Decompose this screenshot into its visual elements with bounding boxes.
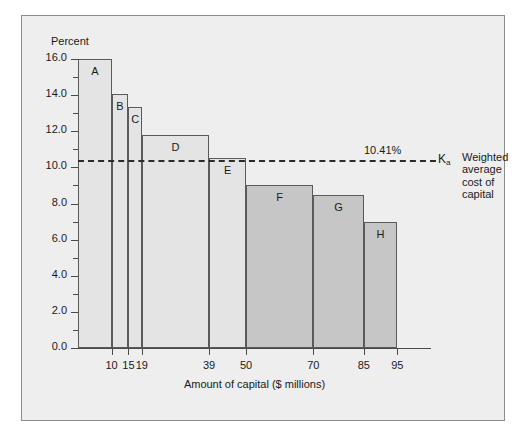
- y-tick: 10.0: [71, 167, 78, 168]
- wacc-description-line: cost of: [462, 176, 508, 189]
- y-tick-mark: [71, 204, 78, 205]
- y-tick-label: 4.0: [52, 268, 67, 280]
- y-tick-label: 16.0: [46, 51, 67, 63]
- y-tick-mark: [71, 95, 78, 96]
- x-tick-mark: [313, 348, 314, 355]
- y-tick-mark: [71, 131, 78, 132]
- wacc-threshold-line: [78, 160, 436, 162]
- y-tick-mark: [71, 59, 78, 60]
- x-tick-label: 95: [391, 359, 403, 371]
- x-tick-label: 85: [358, 359, 370, 371]
- y-tick-mark: [71, 348, 78, 349]
- wacc-description-line: Weighted: [462, 151, 508, 164]
- wacc-symbol-subscript: a: [446, 158, 450, 167]
- y-tick-mark: [71, 312, 78, 313]
- y-tick: 0.0: [71, 348, 78, 349]
- x-tick-label: 15: [122, 359, 134, 371]
- x-tick-mark: [142, 348, 143, 355]
- bar-a: A: [78, 59, 112, 348]
- y-tick-label: 0.0: [52, 340, 67, 352]
- bar-label: D: [143, 141, 208, 153]
- figure-root: Percent 0.02.04.06.08.010.012.014.016.0 …: [0, 0, 525, 437]
- x-tick-label: 39: [203, 359, 215, 371]
- bar-label: H: [365, 228, 397, 240]
- y-axis-title: Percent: [51, 35, 89, 47]
- y-tick-label: 8.0: [52, 196, 67, 208]
- wacc-value-label: 10.41%: [364, 144, 401, 156]
- x-tick-mark: [112, 348, 113, 355]
- wacc-description-line: average: [462, 163, 508, 176]
- bar-label: C: [129, 113, 140, 125]
- bar-g: G: [313, 195, 363, 348]
- y-tick: 12.0: [71, 131, 78, 132]
- y-tick-label: 6.0: [52, 232, 67, 244]
- x-tick-label: 50: [240, 359, 252, 371]
- x-tick-mark: [246, 348, 247, 355]
- bar-label: F: [247, 191, 312, 203]
- bar-label: A: [79, 65, 111, 77]
- y-tick: 8.0: [71, 204, 78, 205]
- bar-d: D: [142, 135, 209, 348]
- bar-h: H: [364, 222, 398, 348]
- bar-b: B: [112, 94, 129, 348]
- wacc-description-label: Weightedaveragecost ofcapital: [462, 151, 508, 201]
- bar-c: C: [128, 107, 141, 348]
- bar-f: F: [246, 185, 313, 348]
- bar-label: E: [210, 164, 245, 176]
- x-axis-line: [78, 348, 431, 349]
- y-tick: 14.0: [71, 95, 78, 96]
- x-tick-mark: [397, 348, 398, 355]
- wacc-description-line: capital: [462, 188, 508, 201]
- y-tick-mark: [71, 276, 78, 277]
- y-tick-label: 14.0: [46, 87, 67, 99]
- y-tick-label: 2.0: [52, 304, 67, 316]
- y-tick: 2.0: [71, 312, 78, 313]
- y-tick-label: 10.0: [46, 159, 67, 171]
- y-tick-mark: [71, 240, 78, 241]
- y-tick-mark: [71, 167, 78, 168]
- wacc-symbol-label: Ka: [438, 152, 450, 166]
- x-tick-label: 19: [136, 359, 148, 371]
- bar-label: G: [314, 201, 362, 213]
- x-tick-mark: [128, 348, 129, 355]
- x-axis-title: Amount of capital ($ millions): [78, 378, 431, 390]
- y-tick: 16.0: [71, 59, 78, 60]
- x-tick-mark: [364, 348, 365, 355]
- chart-panel: Percent 0.02.04.06.08.010.012.014.016.0 …: [21, 15, 505, 421]
- y-tick: 6.0: [71, 240, 78, 241]
- plot-area: Percent 0.02.04.06.08.010.012.014.016.0 …: [22, 16, 504, 420]
- x-tick-label: 70: [307, 359, 319, 371]
- y-tick: 4.0: [71, 276, 78, 277]
- y-tick-label: 12.0: [46, 123, 67, 135]
- x-tick-mark: [209, 348, 210, 355]
- x-tick-label: 10: [105, 359, 117, 371]
- bar-e: E: [209, 158, 246, 348]
- bar-label: B: [113, 100, 128, 112]
